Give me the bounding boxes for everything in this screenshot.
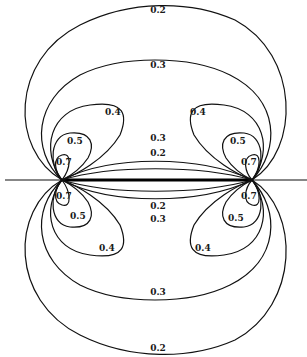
label-outer-top: 0.2 <box>150 5 166 15</box>
label-pole-bottom-right: 0.7 <box>241 191 257 201</box>
contour-plot: 0.2 0.3 0.4 0.4 0.5 0.5 0.7 0.7 0.7 0.7 … <box>0 0 307 357</box>
label-pole-top-right: 0.7 <box>241 157 257 167</box>
label-pole-bottom-left: 0.7 <box>56 191 72 201</box>
contour-0.3-mid-lower <box>62 180 252 199</box>
label-mid-lower-03: 0.3 <box>150 214 166 224</box>
label-inner-bottom-left: 0.5 <box>70 211 86 221</box>
contour-0.2-mid-upper <box>62 169 252 180</box>
contour-diagram: 0.2 0.3 0.4 0.4 0.5 0.5 0.7 0.7 0.7 0.7 … <box>0 0 307 357</box>
label-outer-bottom: 0.2 <box>150 343 166 353</box>
label-pole-top-left: 0.7 <box>56 157 72 167</box>
label-lobe-bottom-right: 0.4 <box>195 243 211 253</box>
label-second-top: 0.3 <box>150 60 166 70</box>
contour-0.3-mid-upper <box>62 161 252 180</box>
label-inner-top-right: 0.5 <box>230 136 246 146</box>
contour-0.2-mid-lower <box>62 180 252 191</box>
label-second-bottom: 0.3 <box>150 287 166 297</box>
contour-0.3-bottom <box>41 180 270 300</box>
label-inner-top-left: 0.5 <box>67 136 83 146</box>
label-lobe-bottom-left: 0.4 <box>99 243 115 253</box>
label-lobe-top-left: 0.4 <box>105 107 121 117</box>
label-inner-bottom-right: 0.5 <box>228 213 244 223</box>
label-mid-lower-02: 0.2 <box>150 201 166 211</box>
label-mid-upper-02: 0.2 <box>150 148 166 158</box>
contour-0.3-top <box>41 60 270 180</box>
label-lobe-top-right: 0.4 <box>190 107 206 117</box>
label-mid-upper-03: 0.3 <box>150 133 166 143</box>
